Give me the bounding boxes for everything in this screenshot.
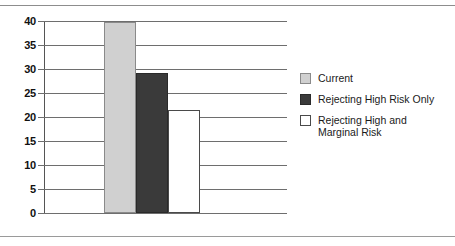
legend-item[interactable]: Rejecting High Risk Only: [300, 93, 452, 105]
dark-gray-swatch: [300, 94, 311, 105]
white-swatch: [300, 115, 311, 126]
chart-legend: CurrentRejecting High Risk OnlyRejecting…: [300, 72, 452, 147]
legend-item-label: Rejecting High and Marginal Risk: [318, 114, 407, 138]
y-axis-tick-label: 0: [6, 208, 36, 219]
plot-area: [44, 21, 287, 213]
legend-item-label: Current: [318, 72, 353, 84]
y-axis-tick-label: 15: [6, 136, 36, 147]
y-axis-tick-label: 25: [6, 88, 36, 99]
gridline: [44, 45, 287, 46]
bar-current: [104, 22, 136, 213]
gridline: [44, 69, 287, 70]
legend-item-label: Rejecting High Risk Only: [318, 93, 434, 105]
light-gray-swatch: [300, 73, 311, 84]
bar-rejecting-high-risk-only: [136, 73, 168, 213]
bar-rejecting-high-and-marginal-risk: [168, 110, 200, 213]
legend-item[interactable]: Rejecting High and Marginal Risk: [300, 114, 452, 138]
y-axis-tick-label: 20: [6, 112, 36, 123]
y-axis-tick-label: 10: [6, 160, 36, 171]
gridline: [44, 213, 287, 214]
y-axis-tick-label: 40: [6, 16, 36, 27]
gridline: [44, 21, 287, 22]
legend-item[interactable]: Current: [300, 72, 452, 84]
bar-chart-figure: 0510152025303540 CurrentRejecting High R…: [0, 6, 455, 236]
y-axis-tick-label: 35: [6, 40, 36, 51]
bottom-divider-rule: [0, 236, 455, 237]
y-axis-tick-labels: 0510152025303540: [0, 21, 36, 213]
y-axis-tick-label: 5: [6, 184, 36, 195]
y-axis-tick-label: 30: [6, 64, 36, 75]
